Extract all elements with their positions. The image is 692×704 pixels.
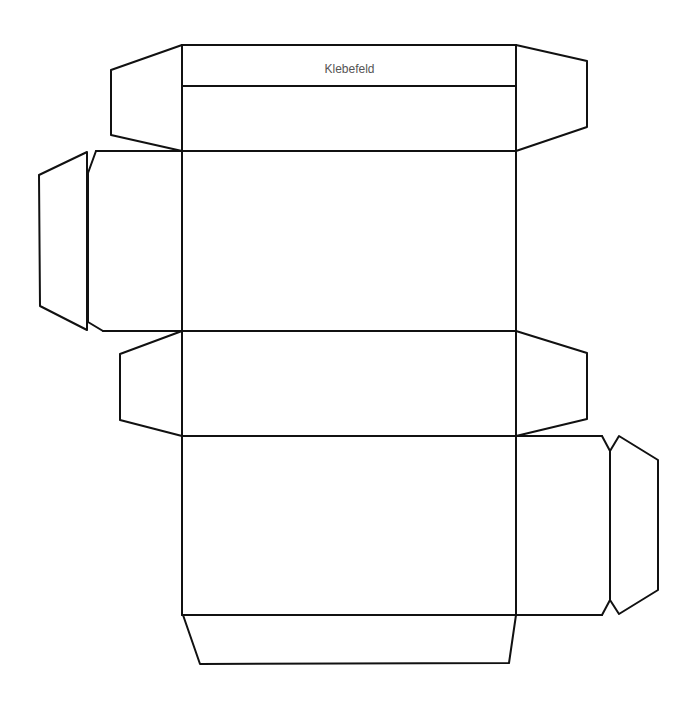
right-outer-flap [610, 436, 658, 614]
middle-right-flap [516, 331, 587, 436]
box-net-diagram [0, 0, 692, 704]
right-side-panel [602, 436, 610, 615]
middle-left-flap [120, 331, 182, 436]
top-right-flap [516, 45, 587, 151]
left-outer-flap [39, 152, 87, 330]
glue-flap-label: Klebefeld [183, 62, 516, 76]
top-left-flap [111, 45, 182, 151]
bottom-flap [183, 615, 516, 664]
left-side-panel [88, 151, 103, 331]
main-column [96, 45, 602, 615]
